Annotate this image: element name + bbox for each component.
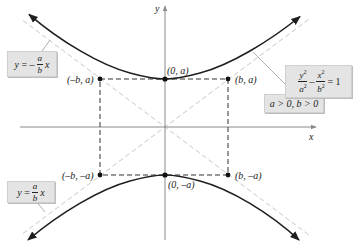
- point-corner-bottom-left: [98, 173, 103, 178]
- label-vertex-bottom: (0, –a): [168, 179, 195, 191]
- callout-lhs: y: [14, 59, 18, 70]
- point-vertex-top: [162, 76, 167, 81]
- label-corner-top-left: (–b, a): [67, 74, 94, 86]
- point-corner-top-left: [98, 77, 103, 82]
- leader-neg-asymptote: [42, 40, 50, 51]
- equation-minus: –: [309, 76, 314, 87]
- y-axis-label: y: [154, 3, 160, 14]
- fraction-a-over-b: ab: [37, 54, 44, 75]
- asymptote-positive-slope: [23, 18, 310, 233]
- callout-positive-asymptote: y =abx: [7, 181, 55, 203]
- callout-equation: y2a2 – x2b2 = 1: [285, 65, 352, 98]
- callout-negative-asymptote: y = –abx: [7, 51, 57, 77]
- callout-var: x: [45, 59, 49, 70]
- callout-eq: =: [21, 59, 27, 70]
- equation-rhs: 1: [336, 76, 341, 87]
- fraction-a-over-b: ab: [32, 182, 39, 203]
- equation-equals: =: [327, 76, 333, 87]
- hyperbola-lower-branch: [28, 175, 299, 240]
- label-vertex-top: (0, a): [167, 65, 189, 77]
- label-corner-top-right: (b, a): [235, 74, 257, 86]
- point-vertex-bottom: [162, 172, 167, 177]
- fraction-y2-over-a2: y2a2: [298, 69, 307, 94]
- point-corner-bottom-right: [226, 173, 231, 178]
- hyperbola-diagram: y x (0, a) (0, –a) (–b, a) (b, a) (–b, –…: [0, 0, 355, 252]
- point-corner-top-right: [226, 77, 231, 82]
- fraction-x2-over-b2: x2b2: [316, 69, 325, 94]
- x-axis-label: x: [308, 131, 314, 142]
- callout-lhs: y: [17, 187, 21, 198]
- leader-equation: [253, 52, 287, 86]
- callout-sign: –: [30, 59, 35, 70]
- label-corner-bottom-left: (–b, –a): [62, 170, 94, 182]
- callout-eq: =: [24, 187, 30, 198]
- callout-var: x: [40, 187, 44, 198]
- asymptote-negative-slope: [23, 21, 310, 236]
- label-corner-bottom-right: (b, –a): [235, 170, 262, 182]
- condition-text: a > 0, b > 0: [270, 98, 319, 109]
